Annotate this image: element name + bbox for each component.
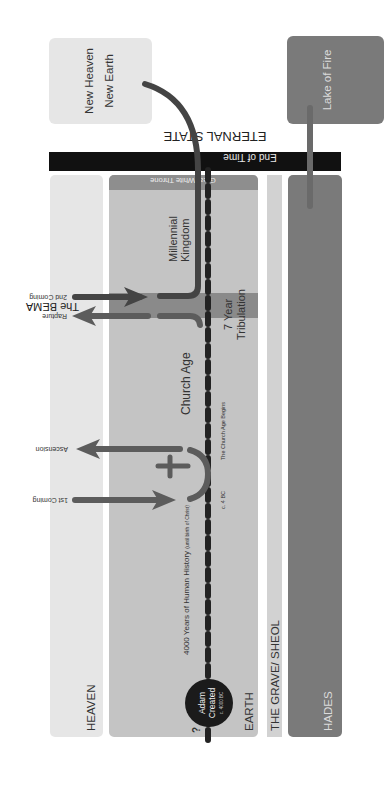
hades-column: HADES xyxy=(288,175,342,737)
svg-text:Created: Created xyxy=(207,688,217,719)
tribulation-label-line1: 7 Year xyxy=(222,298,234,330)
grave-column: THE GRAVE/ SHEOL xyxy=(267,175,282,737)
ascension-label: Ascension xyxy=(36,446,68,453)
timeline-diagram: New Heaven New Earth Lake of Fire ETERNA… xyxy=(0,0,386,785)
new-earth-label: New Earth xyxy=(103,54,115,108)
second-coming-label: 2nd Coming xyxy=(29,293,67,301)
lake-of-fire-box: Lake of Fire xyxy=(287,36,384,124)
new-heaven-box: New Heaven New Earth xyxy=(49,38,152,124)
heaven-label: HEAVEN xyxy=(85,685,97,731)
new-heaven-label: New Heaven xyxy=(83,48,95,114)
church-age-label: Church Age xyxy=(179,352,193,415)
church-age-begins-label: The Church Age Begins xyxy=(220,402,226,460)
earth-label: EARTH xyxy=(243,692,255,731)
svg-text:Adam: Adam xyxy=(197,692,207,714)
bema-label: The BEMA xyxy=(25,301,79,313)
end-of-time-label: End of Time xyxy=(223,152,277,163)
millennial-label-line2: Kingdom xyxy=(179,219,191,262)
svg-text:c. 4000 BC: c. 4000 BC xyxy=(219,691,224,714)
grave-label: THE GRAVE/ SHEOL xyxy=(269,619,281,731)
birth-date-label: c. 4 BC xyxy=(220,491,226,509)
eternal-state-label: ETERNAL STATE xyxy=(163,129,266,144)
adam-created-marker: Adam Created c. 4000 BC xyxy=(185,679,233,727)
first-coming-label: 1st Coming xyxy=(32,496,68,504)
lake-of-fire-label: Lake of Fire xyxy=(321,50,333,111)
tribulation-label-line2: Tribulation xyxy=(235,289,247,340)
unknown-origin-mark: ? xyxy=(191,727,202,733)
human-history-label: 4000 Years of Human History (until birth… xyxy=(182,505,191,655)
hades-label: HADES xyxy=(322,691,334,731)
millennial-label-line1: Millennial xyxy=(167,216,179,262)
